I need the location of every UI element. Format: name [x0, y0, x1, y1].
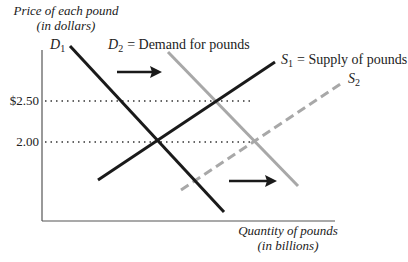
x-axis-label-line2: (in billions): [257, 238, 318, 253]
label-d1: D1: [49, 37, 65, 54]
ytick-label-200: 2.00: [16, 134, 39, 149]
label-d2: D2= Demand for pounds: [107, 37, 250, 54]
supply-curve-s2: [181, 83, 342, 190]
x-axis-label-line1: Quantity of pounds: [238, 223, 338, 238]
label-s1: S1= Supply of pounds: [281, 52, 407, 69]
label-s2: S2: [348, 71, 360, 88]
ytick-label-250: $2.50: [10, 93, 39, 108]
supply-curve-s1: [98, 62, 275, 180]
supply-shift-arrow: [229, 175, 277, 187]
y-axis-label-line1: Price of each pound: [12, 3, 119, 18]
y-axis-label-line2: (in dollars): [37, 18, 96, 33]
demand-shift-arrow: [117, 66, 162, 78]
exchange-rate-chart: Price of each pound (in dollars) Quantit…: [0, 0, 408, 262]
